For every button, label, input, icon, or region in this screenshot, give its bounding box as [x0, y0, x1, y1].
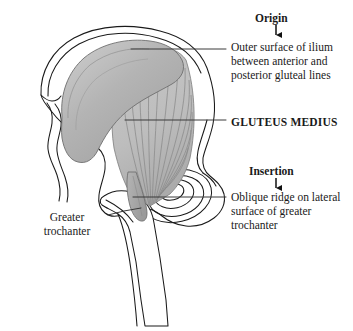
- insertion-heading: Insertion: [249, 164, 294, 178]
- origin-heading: Origin: [255, 11, 288, 25]
- origin-description: Outer surface of ilium between anterior …: [231, 40, 353, 82]
- muscle-name-label: GLUTEUS MEDIUS: [231, 115, 338, 129]
- greater-trochanter-label: Greater trochanter: [28, 210, 106, 238]
- insertion-description: Oblique ridge on lateral surface of grea…: [231, 190, 353, 232]
